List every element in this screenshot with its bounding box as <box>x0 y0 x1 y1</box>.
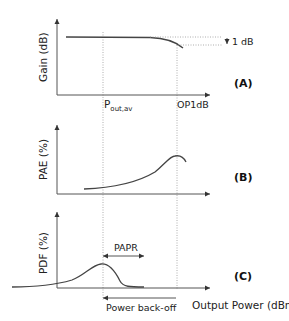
pae-y-axis-label: PAE (%) <box>37 139 49 180</box>
power-backoff-label: Power back-off <box>106 302 177 313</box>
pae-curve <box>84 156 186 189</box>
panel-c-label: (C) <box>234 270 252 283</box>
panel-a-gain: 1 dB Gain (dB) (A) <box>37 19 254 95</box>
pout-av-subscript: out,av <box>110 105 132 113</box>
panel-a-label: (A) <box>234 77 253 90</box>
x-axis-label: Output Power (dBm) <box>192 299 289 311</box>
pdf-y-axis-label: PDF (%) <box>37 232 49 274</box>
papr-label: PAPR <box>114 242 138 253</box>
one-db-label: 1 dB <box>232 36 254 47</box>
panel-b-label: (B) <box>234 171 252 184</box>
pout-av-label: Pout,av <box>104 98 132 113</box>
amplifier-characteristics-diagram: 1 dB Gain (dB) (A) Pout,av OP1dB PAE (%)… <box>0 0 289 321</box>
pdf-curve <box>12 264 144 287</box>
panel-b-pae: PAE (%) (B) <box>37 125 252 194</box>
gain-y-axis-label: Gain (dB) <box>37 32 49 82</box>
op1db-label: OP1dB <box>177 99 209 110</box>
panel-c-pdf: PAPR Power back-off PDF (%) (C) Output P… <box>12 212 289 313</box>
gain-curve <box>66 37 183 48</box>
